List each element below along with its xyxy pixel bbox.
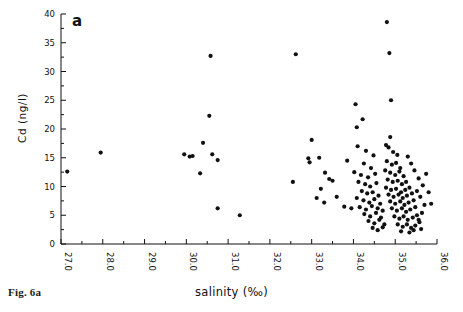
svg-text:34.0: 34.0 (355, 252, 365, 271)
x-axis-title: salinity (‰) (0, 285, 463, 299)
y-axis-title: Cd (ng/l) (16, 58, 28, 178)
scatter-plot: 27.028.029.030.031.032.033.034.035.036.0… (0, 0, 463, 312)
panel-label: a (72, 12, 82, 30)
figure-6a: 27.028.029.030.031.032.033.034.035.036.0… (0, 0, 463, 312)
svg-text:27.0: 27.0 (63, 252, 73, 271)
svg-text:33.0: 33.0 (314, 252, 324, 271)
svg-text:10: 10 (44, 182, 55, 192)
svg-text:5: 5 (50, 210, 55, 220)
svg-text:36.0: 36.0 (439, 252, 449, 271)
svg-text:20: 20 (44, 124, 55, 134)
svg-text:30: 30 (44, 67, 55, 77)
svg-text:0: 0 (50, 239, 55, 249)
data-points (65, 20, 433, 235)
svg-text:25: 25 (44, 95, 55, 105)
svg-text:35: 35 (44, 38, 55, 48)
svg-text:29.0: 29.0 (147, 252, 157, 271)
svg-text:28.0: 28.0 (105, 252, 115, 271)
svg-text:32.0: 32.0 (272, 252, 282, 271)
svg-text:40: 40 (44, 9, 55, 19)
svg-text:15: 15 (44, 153, 55, 163)
svg-text:31.0: 31.0 (230, 252, 240, 271)
svg-text:30.0: 30.0 (188, 252, 198, 271)
figure-caption: Fig. 6a (8, 286, 41, 298)
svg-text:35.0: 35.0 (397, 252, 407, 271)
axes: 27.028.029.030.031.032.033.034.035.036.0… (44, 9, 449, 271)
